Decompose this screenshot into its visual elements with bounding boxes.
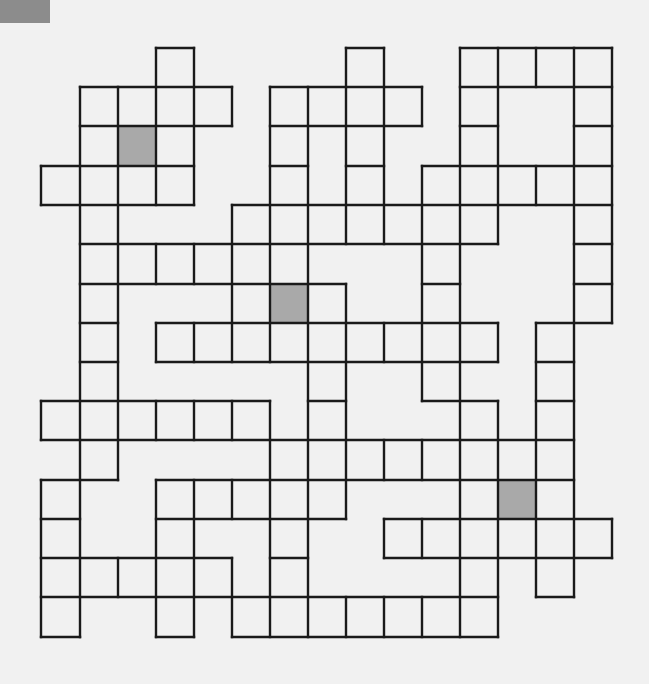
shaded-cell [270, 284, 308, 323]
shaded-cell [118, 126, 156, 166]
crossword-grid[interactable] [0, 0, 649, 684]
shaded-cell [498, 480, 536, 519]
